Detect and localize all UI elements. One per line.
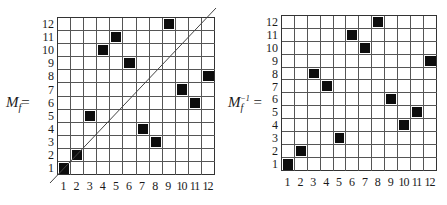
filled-cell <box>359 42 372 55</box>
empty-cell <box>359 29 372 42</box>
empty-cell <box>321 106 334 119</box>
empty-cell <box>359 132 372 145</box>
empty-cell <box>71 136 84 149</box>
empty-cell <box>411 119 424 132</box>
empty-cell <box>346 119 359 132</box>
empty-cell <box>372 158 385 171</box>
x-tick-label: 12 <box>423 176 436 189</box>
empty-cell <box>123 149 136 162</box>
filled-cell <box>282 158 295 171</box>
filled-cell <box>346 29 359 42</box>
empty-cell <box>163 110 176 123</box>
empty-cell <box>176 57 189 70</box>
empty-cell <box>189 83 202 96</box>
empty-cell <box>334 42 347 55</box>
empty-cell <box>295 93 308 106</box>
empty-cell <box>424 80 437 93</box>
empty-cell <box>202 149 215 162</box>
y-tick-label: 7 <box>40 84 54 97</box>
empty-cell <box>321 68 334 81</box>
empty-cell <box>189 136 202 149</box>
empty-cell <box>84 57 97 70</box>
matrix-label-mf-inverse: Mf−1 = <box>228 94 262 113</box>
y-tick-label: 12 <box>264 16 278 29</box>
empty-cell <box>334 106 347 119</box>
empty-cell <box>71 123 84 136</box>
empty-cell <box>176 123 189 136</box>
empty-cell <box>411 29 424 42</box>
empty-cell <box>372 80 385 93</box>
filled-cell <box>411 106 424 119</box>
y-tick-label: 2 <box>264 145 278 158</box>
empty-cell <box>71 57 84 70</box>
empty-cell <box>97 57 110 70</box>
empty-cell <box>385 29 398 42</box>
x-tick-label: 12 <box>201 180 214 193</box>
empty-cell <box>84 31 97 44</box>
filled-cell <box>202 70 215 83</box>
empty-cell <box>308 42 321 55</box>
empty-cell <box>202 83 215 96</box>
empty-cell <box>372 132 385 145</box>
x-tick-label: 5 <box>109 180 122 193</box>
empty-cell <box>189 44 202 57</box>
filled-cell <box>97 44 110 57</box>
empty-cell <box>189 162 202 175</box>
x-tick-label: 4 <box>320 176 333 189</box>
empty-cell <box>123 44 136 57</box>
empty-cell <box>321 55 334 68</box>
empty-cell <box>385 55 398 68</box>
empty-cell <box>372 93 385 106</box>
empty-cell <box>150 149 163 162</box>
empty-cell <box>110 44 123 57</box>
empty-cell <box>424 119 437 132</box>
empty-cell <box>359 158 372 171</box>
empty-cell <box>398 93 411 106</box>
empty-cell <box>150 110 163 123</box>
filled-cell <box>321 80 334 93</box>
empty-cell <box>359 106 372 119</box>
empty-cell <box>385 42 398 55</box>
empty-cell <box>97 83 110 96</box>
empty-cell <box>84 136 97 149</box>
empty-cell <box>84 162 97 175</box>
empty-cell <box>385 145 398 158</box>
empty-cell <box>308 106 321 119</box>
empty-cell <box>189 123 202 136</box>
empty-cell <box>71 83 84 96</box>
empty-cell <box>202 18 215 31</box>
filled-cell <box>424 55 437 68</box>
empty-cell <box>110 149 123 162</box>
filled-cell <box>137 123 150 136</box>
empty-cell <box>58 57 71 70</box>
empty-cell <box>295 80 308 93</box>
x-tick-label: 7 <box>358 176 371 189</box>
x-tick-label: 8 <box>149 180 162 193</box>
empty-cell <box>137 110 150 123</box>
label-m: M <box>6 94 19 110</box>
empty-cell <box>137 18 150 31</box>
empty-cell <box>163 70 176 83</box>
y-tick-label: 5 <box>264 106 278 119</box>
empty-cell <box>189 149 202 162</box>
filled-cell <box>295 145 308 158</box>
empty-cell <box>334 93 347 106</box>
empty-cell <box>424 132 437 145</box>
x-tick-label: 10 <box>397 176 410 189</box>
x-tick-label: 7 <box>136 180 149 193</box>
empty-cell <box>308 119 321 132</box>
y-tick-label: 11 <box>40 31 54 44</box>
empty-cell <box>334 145 347 158</box>
empty-cell <box>123 97 136 110</box>
empty-cell <box>189 110 202 123</box>
empty-cell <box>163 57 176 70</box>
empty-cell <box>372 106 385 119</box>
empty-cell <box>346 132 359 145</box>
empty-cell <box>202 136 215 149</box>
x-tick-label: 9 <box>162 180 175 193</box>
matrix-grid <box>281 15 437 171</box>
empty-cell <box>176 70 189 83</box>
empty-cell <box>189 57 202 70</box>
empty-cell <box>150 123 163 136</box>
empty-cell <box>110 70 123 83</box>
